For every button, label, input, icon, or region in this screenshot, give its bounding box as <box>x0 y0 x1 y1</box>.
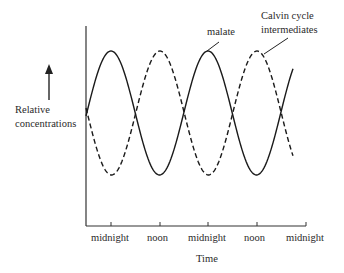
malate-curve <box>86 51 293 175</box>
x-axis-label: Time <box>196 253 218 265</box>
tick-label-noon-1: noon <box>147 232 168 244</box>
tick-label-noon-2: noon <box>244 232 265 244</box>
y-axis-label-line1: Relative <box>15 104 50 116</box>
malate-label: malate <box>207 26 235 38</box>
calvin-label-line2: intermediates <box>261 24 318 36</box>
tick-label-midnight-1: midnight <box>91 232 129 244</box>
tick-label-midnight-3: midnight <box>286 232 324 244</box>
calvin-label-line1: Calvin cycle <box>261 10 314 22</box>
malate-leader-line <box>207 42 219 51</box>
up-arrow-icon <box>45 64 53 100</box>
tick-label-midnight-2: midnight <box>188 232 226 244</box>
calvin-leader-line <box>264 38 288 54</box>
y-axis-label-line2: concentrations <box>15 118 76 130</box>
calvin-cycle-curve <box>86 51 293 175</box>
